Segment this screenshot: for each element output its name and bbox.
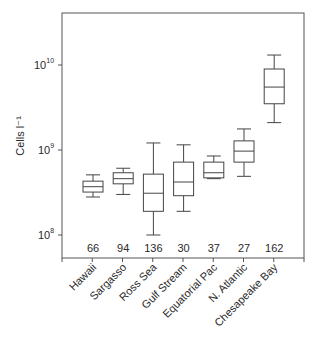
box-hawaii	[83, 175, 103, 197]
sample-count: 66	[87, 242, 99, 254]
box-gulf-stream	[174, 145, 194, 211]
box-chesapeake-bay	[264, 55, 284, 123]
boxplot-chart: 1081091010 HawaiiSargassoRoss SeaGulf St…	[0, 0, 318, 340]
y-tick-label: 1010	[34, 57, 54, 71]
sample-counts: 6694136303727162	[87, 242, 284, 254]
sample-count: 27	[238, 242, 250, 254]
box-series	[83, 55, 284, 235]
y-axis: 1081091010	[34, 57, 62, 241]
plot-border	[62, 13, 304, 258]
x-axis: HawaiiSargassoRoss SeaGulf StreamEquator…	[62, 258, 304, 329]
sample-count: 30	[177, 242, 189, 254]
iqr-box	[264, 69, 284, 104]
iqr-box	[204, 162, 224, 178]
box-ross-sea	[143, 143, 163, 235]
sample-count: 37	[208, 242, 220, 254]
sample-count: 94	[117, 242, 129, 254]
sample-count: 162	[265, 242, 283, 254]
y-tick-label: 109	[38, 142, 54, 156]
iqr-box	[174, 162, 194, 196]
box-equatorial-pac	[204, 156, 224, 179]
box-n-atlantic	[234, 129, 254, 176]
y-axis-label: Cells l⁻¹	[14, 116, 26, 156]
box-sargasso	[113, 168, 133, 194]
y-tick-label: 108	[38, 227, 54, 241]
iqr-box	[143, 174, 163, 211]
plot-frame	[62, 13, 304, 258]
sample-count: 136	[144, 242, 162, 254]
